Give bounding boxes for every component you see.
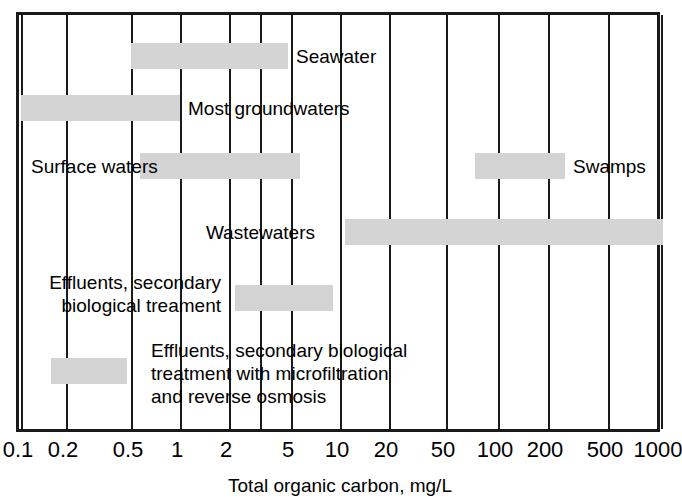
series-label-seawater: Seawater — [296, 45, 376, 68]
x-axis-tick-labels: 0.10.20.51251020501002005001000 — [0, 437, 680, 467]
x-tick-label-50: 50 — [431, 437, 455, 463]
series-label-effluents-secondary-biological: Effluents, secondary biological treament — [19, 271, 221, 317]
x-tick-label-0-1: 0.1 — [3, 437, 34, 463]
x-tick-label-200: 200 — [527, 437, 564, 463]
series-label-most-groundwaters: Most groundwaters — [188, 97, 350, 120]
range-bar-effluents-secondary-biological — [235, 285, 333, 311]
range-bar-swamps — [475, 153, 565, 179]
x-tick-label-100: 100 — [477, 437, 514, 463]
range-bar-seawater — [131, 43, 288, 69]
x-tick-label-10: 10 — [325, 437, 349, 463]
range-bar-effluents-microfiltration-ro — [51, 358, 127, 384]
series-label-wastewaters: Wastewaters — [19, 221, 315, 244]
x-tick-label-0-2: 0.2 — [48, 437, 79, 463]
series-label-swamps: Swamps — [573, 155, 646, 178]
range-bar-most-groundwaters — [21, 95, 180, 121]
x-tick-label-500: 500 — [587, 437, 624, 463]
x-tick-label-1: 1 — [171, 437, 183, 463]
series-label-effluents-microfiltration-ro: Effluents, secondary biological treatmen… — [151, 339, 407, 408]
x-tick-label-5: 5 — [282, 437, 294, 463]
x-tick-label-0-5: 0.5 — [113, 437, 144, 463]
series-label-surface-waters: Surface waters — [31, 155, 158, 178]
x-tick-label-2: 2 — [220, 437, 232, 463]
plot-frame: SeawaterMost groundwatersSurface watersS… — [16, 12, 660, 432]
x-tick-label-1000: 1000 — [634, 437, 682, 463]
x-tick-label-20: 20 — [374, 437, 398, 463]
range-bar-wastewaters — [345, 219, 663, 245]
range-bar-surface-waters — [140, 153, 300, 179]
x-axis-title: Total organic carbon, mg/L — [0, 474, 680, 497]
